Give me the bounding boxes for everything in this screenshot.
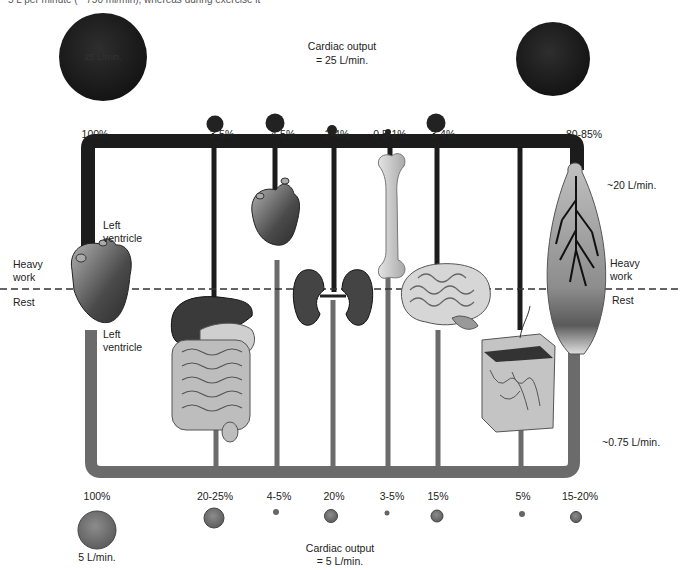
- heavy-work-cardiac-output-value: = 25 L/min.: [316, 54, 368, 67]
- left-ventricle-label-top-2: ventricle: [103, 232, 142, 245]
- brain-illustration: [401, 264, 490, 330]
- rest-digestive-circle: [204, 508, 224, 528]
- rest-cardiac-output-value: = 5 L/min.: [317, 555, 363, 568]
- heavy-work-label-left-2: work: [13, 271, 35, 284]
- heavy-heart-pct: 4-5%: [271, 128, 296, 141]
- left-ventricle-label-top-1: Left: [103, 219, 121, 232]
- rest-label-right: Rest: [612, 294, 634, 307]
- rest-muscle-circle: [571, 512, 582, 523]
- heavy-muscle-circle: [516, 22, 590, 96]
- blood-flow-diagram: [0, 0, 682, 570]
- rest-bone-circle: [385, 511, 390, 516]
- heavy-muscle-flow: ~20 L/min.: [607, 179, 656, 192]
- rest-total-pct: 100%: [84, 490, 111, 503]
- left-ventricle-label-bottom-1: Left: [103, 328, 121, 341]
- rest-skin-pct: 5%: [515, 490, 530, 503]
- heavy-brain-pct: 3-4%: [431, 128, 456, 141]
- digestive-tract-illustration: [171, 297, 254, 442]
- rest-label-left: Rest: [13, 296, 35, 309]
- rest-muscle-pct: 15-20%: [562, 490, 598, 503]
- rest-total-circle: [78, 511, 116, 549]
- rest-kidney-circle: [325, 510, 338, 523]
- heavy-work-circles: [59, 13, 590, 135]
- left-ventricle-heart-illustration: [71, 239, 131, 323]
- rest-heart-pct: 4-5%: [267, 490, 292, 503]
- heavy-kidney-pct: 2-4%: [325, 128, 350, 141]
- heavy-work-label-left-1: Heavy: [13, 258, 43, 271]
- heavy-digestive-pct: 3-5%: [210, 128, 235, 141]
- heavy-bone-pct: 0.5-1%: [373, 128, 406, 141]
- rest-kidney-pct: 20%: [323, 490, 344, 503]
- left-ventricle-label-bottom-2: ventricle: [103, 341, 142, 354]
- skeletal-muscle-illustration: [547, 163, 606, 354]
- heavy-work-label-right-1: Heavy: [610, 257, 640, 270]
- rest-brain-circle: [431, 510, 443, 522]
- rest-total-circle-label: 5 L/min.: [78, 551, 115, 564]
- heavy-total-circle-label: 25 L/min.: [84, 51, 121, 64]
- heavy-muscle-pct: 80-85%: [566, 128, 602, 141]
- rest-muscle-flow: ~0.75 L/min.: [602, 436, 660, 449]
- rest-brain-pct: 15%: [427, 490, 448, 503]
- rest-skin-circle: [519, 511, 525, 517]
- heavy-work-cardiac-output-title: Cardiac output: [308, 40, 376, 53]
- heavy-total-pct: 100%: [82, 128, 109, 141]
- rest-bone-pct: 3-5%: [380, 490, 405, 503]
- rest-cardiac-output-title: Cardiac output: [306, 542, 374, 555]
- rest-digestive-pct: 20-25%: [197, 490, 233, 503]
- rest-heart-circle: [273, 509, 279, 515]
- bone-illustration: [378, 154, 405, 279]
- heavy-work-label-right-2: work: [610, 270, 632, 283]
